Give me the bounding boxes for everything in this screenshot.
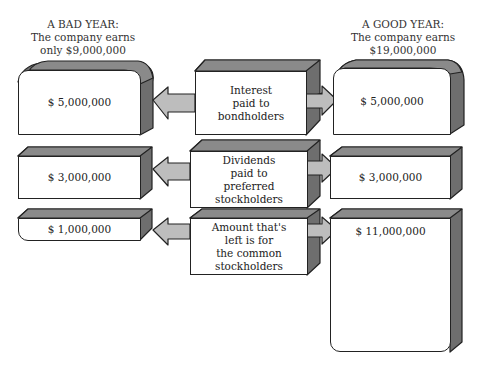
- good-common-amount: $ 11,000,000: [355, 225, 425, 238]
- dividends-line2: paid to: [231, 167, 268, 180]
- common-line2: left is for: [225, 234, 273, 247]
- bad-common-amount: $ 1,000,000: [48, 223, 111, 236]
- interest-line3: bondholders: [218, 110, 284, 123]
- bad-bondholders-box: $ 5,000,000: [18, 70, 141, 135]
- interest-line2: paid to: [233, 97, 270, 110]
- bad-preferred-amount: $ 3,000,000: [48, 171, 111, 184]
- interest-box: Interest paid to bondholders: [195, 71, 307, 135]
- good-common-box: $ 11,000,000: [330, 218, 451, 352]
- common-box: Amount that's left is for the common sto…: [190, 218, 308, 275]
- common-line3: the common: [216, 247, 282, 260]
- bad-bondholders-amount: $ 5,000,000: [48, 96, 111, 109]
- dividends-line4: stockholders: [215, 193, 283, 206]
- interest-line1: Interest: [230, 84, 272, 97]
- dividends-line3: preferred: [223, 180, 274, 193]
- common-line4: stockholders: [215, 260, 283, 273]
- dividends-line1: Dividends: [223, 154, 276, 167]
- bad-common-box: $ 1,000,000: [18, 218, 141, 241]
- dividends-box: Dividends paid to preferred stockholders: [190, 151, 308, 208]
- bad-preferred-box: $ 3,000,000: [18, 156, 141, 199]
- good-preferred-amount: $ 3,000,000: [359, 171, 422, 184]
- common-line1: Amount that's: [212, 221, 287, 234]
- good-bondholders-box: $ 5,000,000: [333, 68, 451, 135]
- good-preferred-box: $ 3,000,000: [330, 156, 451, 199]
- good-bondholders-amount: $ 5,000,000: [360, 95, 423, 108]
